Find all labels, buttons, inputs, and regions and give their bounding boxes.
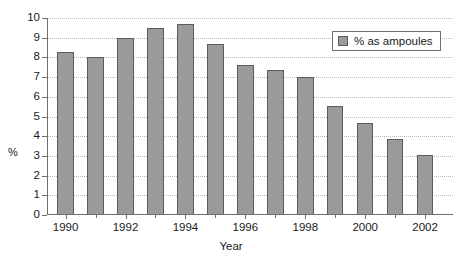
x-axis-label: 1998 xyxy=(285,221,325,233)
x-axis-tick-minor xyxy=(215,214,216,218)
y-axis-tick xyxy=(42,156,47,157)
bar xyxy=(357,123,373,215)
bar-chart: 012345678910 199019921994199619982000200… xyxy=(0,0,462,263)
x-axis-label: 2002 xyxy=(405,221,445,233)
x-axis-label: 1994 xyxy=(165,221,205,233)
bar xyxy=(387,139,403,215)
x-axis-tick-minor xyxy=(275,214,276,218)
bar xyxy=(117,38,133,215)
x-axis-title: Year xyxy=(0,240,462,252)
y-axis-label: 2 xyxy=(22,170,40,182)
x-axis-label: 1992 xyxy=(106,221,146,233)
legend-swatch-ampoules xyxy=(338,36,348,46)
y-axis-label: 9 xyxy=(22,32,40,44)
x-axis-tick-minor xyxy=(335,214,336,218)
x-axis-tick xyxy=(365,214,366,219)
y-axis-tick xyxy=(42,18,47,19)
x-axis-line xyxy=(47,214,453,215)
y-axis-tick xyxy=(42,136,47,137)
x-axis-tick xyxy=(305,214,306,219)
x-axis-label: 1996 xyxy=(225,221,265,233)
y-axis-line xyxy=(47,18,48,215)
y-axis-tick xyxy=(42,77,47,78)
bar xyxy=(327,106,343,215)
y-axis-label: 8 xyxy=(22,51,40,63)
bar xyxy=(57,52,73,216)
y-axis-tick xyxy=(42,176,47,177)
gridline xyxy=(47,18,453,19)
y-axis-title: % xyxy=(8,146,18,158)
x-axis-tick-minor xyxy=(155,214,156,218)
y-axis-tick xyxy=(42,117,47,118)
y-axis-label: 3 xyxy=(22,150,40,162)
bar xyxy=(297,77,313,215)
bar xyxy=(207,44,223,215)
x-axis-tick xyxy=(66,214,67,219)
bar xyxy=(177,24,193,215)
legend-label-ampoules: % as ampoules xyxy=(354,35,433,47)
x-axis-tick xyxy=(425,214,426,219)
y-axis-label: 5 xyxy=(22,111,40,123)
x-axis-label: 2000 xyxy=(345,221,385,233)
y-axis-tick xyxy=(42,195,47,196)
y-axis-tick xyxy=(42,97,47,98)
y-axis-label: 6 xyxy=(22,91,40,103)
x-axis-tick-minor xyxy=(96,214,97,218)
y-axis-label: 1 xyxy=(22,189,40,201)
x-axis-tick xyxy=(245,214,246,219)
bar xyxy=(87,57,103,215)
x-axis-tick-minor xyxy=(395,214,396,218)
y-axis-tick xyxy=(42,57,47,58)
x-axis-tick xyxy=(126,214,127,219)
y-axis-label: 7 xyxy=(22,71,40,83)
legend: % as ampoules xyxy=(332,31,441,51)
x-axis-label: 1990 xyxy=(46,221,86,233)
y-axis-label: 10 xyxy=(22,12,40,24)
y-axis-label: 4 xyxy=(22,130,40,142)
gridline xyxy=(47,57,453,58)
y-axis-tick xyxy=(42,215,47,216)
y-axis-label: 0 xyxy=(22,209,40,221)
x-axis-tick xyxy=(185,214,186,219)
bar xyxy=(147,28,163,215)
y-axis-tick xyxy=(42,38,47,39)
bar xyxy=(237,65,253,215)
bar xyxy=(267,70,283,215)
bar xyxy=(417,155,433,215)
